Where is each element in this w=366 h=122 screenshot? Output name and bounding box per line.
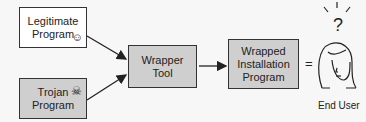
node-label: Legitimate Program	[28, 15, 79, 41]
node-legitimate-program: Legitimate Program ☺	[19, 7, 87, 48]
smiley-icon: ☺	[72, 31, 83, 44]
node-label: Wrapper Tool	[142, 54, 184, 80]
arrow-legitimate-to-wrapper	[87, 36, 126, 59]
node-wrapper-tool: Wrapper Tool	[128, 45, 197, 88]
question-mark-icon: ?	[333, 15, 343, 35]
node-trojan-program: Trojan Program ☠	[19, 78, 87, 119]
arrow-trojan-to-wrapper	[87, 75, 126, 100]
node-wrapped-installation-program: Wrapped Installation Program	[228, 39, 299, 89]
node-label: Wrapped Installation Program	[237, 45, 290, 84]
end-user-label: End User	[318, 100, 360, 111]
skull-crossbones-icon: ☠	[71, 85, 82, 98]
node-label: Trojan Program	[32, 86, 74, 112]
equals-sign: =	[305, 56, 313, 71]
